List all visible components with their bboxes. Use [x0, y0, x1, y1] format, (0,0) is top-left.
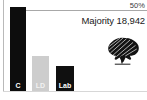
bar-liberal-democrat-label: LD — [32, 82, 49, 90]
majority-annotation: Majority 18,942 — [82, 15, 145, 27]
bar-liberal-democrat[interactable]: LD — [32, 56, 49, 91]
bar-conservative-fill — [10, 7, 26, 91]
fifty-percent-reference-line — [24, 10, 147, 11]
bar-conservative[interactable]: C — [10, 7, 26, 91]
bar-conservative-label: C — [10, 82, 26, 90]
fifty-percent-label: 50% — [130, 1, 145, 10]
bar-labour-label: Lab — [56, 82, 74, 90]
tree-icon — [104, 36, 140, 66]
election-result-bar-chart: 50% Majority 18,942 C LD Lab — [0, 0, 147, 100]
bar-labour[interactable]: Lab — [56, 66, 74, 91]
y-axis-line — [3, 0, 4, 92]
x-axis-baseline — [3, 91, 147, 92]
